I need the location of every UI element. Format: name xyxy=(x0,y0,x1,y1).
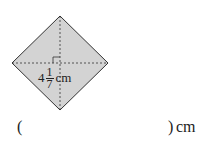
label-fraction: 1 7 xyxy=(46,67,54,90)
answer-open-paren: ( xyxy=(17,118,22,136)
answer-row: ( ) cm xyxy=(0,118,206,142)
answer-close-paren: ) xyxy=(168,118,173,136)
label-denominator: 7 xyxy=(47,79,53,90)
square-diagram xyxy=(0,0,206,125)
diamond-figure: 4 1 7 cm xyxy=(0,0,206,125)
label-whole: 4 xyxy=(38,70,45,86)
answer-blank[interactable] xyxy=(26,120,166,140)
answer-unit: cm xyxy=(176,118,196,136)
label-unit: cm xyxy=(56,70,72,86)
diagonal-length-label: 4 1 7 cm xyxy=(38,63,71,93)
